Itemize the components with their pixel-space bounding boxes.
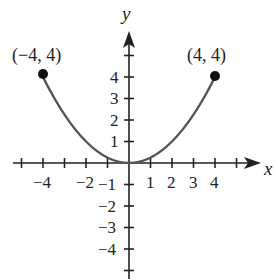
- y-tick-label: −4: [98, 240, 117, 259]
- y-axis: [124, 42, 134, 279]
- x-axis-label: x: [263, 158, 273, 179]
- right-endpoint: [210, 71, 220, 81]
- y-tick-label: 4: [110, 68, 119, 87]
- y-tick-label: 3: [110, 89, 119, 108]
- y-tick-label: 1: [110, 132, 119, 151]
- right-endpoint-label: (4, 4): [187, 45, 226, 66]
- x-tick-label: 3: [189, 173, 198, 192]
- x-tick-label: 2: [167, 173, 176, 192]
- y-tick-label: −3: [98, 218, 116, 237]
- left-endpoint-label: (−4, 4): [12, 45, 61, 66]
- y-tick-label: −1: [98, 175, 116, 194]
- left-endpoint: [38, 69, 48, 79]
- x-tick-label: −2: [76, 173, 94, 192]
- y-tick-label: −2: [98, 197, 116, 216]
- x-tick-label: 1: [146, 173, 155, 192]
- x-tick-label: 4: [210, 173, 219, 192]
- y-tick-label: 2: [110, 111, 119, 130]
- x-tick-label: −4: [33, 173, 52, 192]
- y-axis-label: y: [120, 3, 131, 24]
- graph: x y −4 −2 1 2 3 4 4 3 2 1 −1 −2 −3 −4 (−…: [0, 0, 275, 279]
